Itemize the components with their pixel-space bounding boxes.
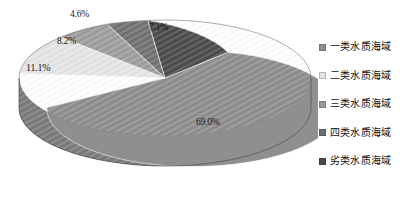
legend-swatch-icon xyxy=(319,158,326,165)
legend-swatch-icon xyxy=(319,44,326,51)
pie-chart: 69.0% 11.1% 8.2% 4.6% 7.1% xyxy=(0,0,318,212)
legend-label: 二类水质海域 xyxy=(330,70,391,82)
legend-label: 三类水质海域 xyxy=(330,98,391,110)
legend-label: 四类水质海域 xyxy=(330,127,391,139)
legend-label: 一类水质海域 xyxy=(330,41,391,53)
data-label-sanlei: 8.2% xyxy=(57,36,76,46)
legend-item-erlei[interactable]: 二类水质海域 xyxy=(319,70,414,82)
data-label-erlei: 11.1% xyxy=(26,62,50,73)
legend-item-lielei[interactable]: 劣类水质海域 xyxy=(319,155,414,167)
legend-label: 劣类水质海域 xyxy=(330,155,391,167)
legend-swatch-icon xyxy=(319,101,326,108)
legend-item-yilei[interactable]: 一类水质海域 xyxy=(319,41,414,53)
data-label-lielei: 7.1% xyxy=(149,22,168,32)
data-label-yilei: 69.0% xyxy=(196,117,220,127)
chart-canvas: 69.0% 11.1% 8.2% 4.6% 7.1% 一类水质海域 二类水质海域… xyxy=(0,0,414,212)
legend-item-silei[interactable]: 四类水质海域 xyxy=(319,127,414,139)
data-label-silei: 4.6% xyxy=(70,9,89,19)
chart-legend: 一类水质海域 二类水质海域 三类水质海域 四类水质海域 劣类水质海域 xyxy=(319,41,414,184)
legend-item-sanlei[interactable]: 三类水质海域 xyxy=(319,98,414,110)
legend-swatch-icon xyxy=(319,72,326,79)
legend-swatch-icon xyxy=(319,129,326,136)
